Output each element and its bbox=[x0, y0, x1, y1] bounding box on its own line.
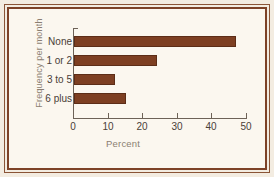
x-tick-20 bbox=[142, 113, 143, 119]
x-axis-title: Percent bbox=[106, 138, 140, 149]
x-tick-10 bbox=[108, 113, 109, 119]
x-tick-label-0: 0 bbox=[70, 121, 76, 132]
x-tick-30 bbox=[177, 113, 178, 119]
bar-chart-figure: Frequency per month None 1 or 2 3 to 5 6… bbox=[0, 0, 274, 177]
x-tick-label-10: 10 bbox=[102, 121, 113, 132]
bar-6-plus bbox=[74, 93, 126, 104]
x-tick-label-50: 50 bbox=[240, 121, 251, 132]
bar-3-to-5 bbox=[74, 74, 115, 85]
x-axis-line bbox=[73, 118, 246, 119]
y-tick-label-1-or-2: 1 or 2 bbox=[26, 51, 72, 70]
bar-1-or-2 bbox=[74, 55, 157, 66]
bar-none bbox=[74, 36, 236, 47]
x-tick-0 bbox=[73, 113, 74, 119]
x-tick-label-40: 40 bbox=[205, 121, 216, 132]
x-tick-label-20: 20 bbox=[136, 121, 147, 132]
x-tick-50 bbox=[246, 113, 247, 119]
x-tick-label-30: 30 bbox=[171, 121, 182, 132]
x-tick-40 bbox=[211, 113, 212, 119]
y-axis-top-cap bbox=[73, 28, 78, 29]
plot-area: Frequency per month None 1 or 2 3 to 5 6… bbox=[10, 10, 264, 167]
y-axis-tick-labels: None 1 or 2 3 to 5 6 plus bbox=[26, 32, 72, 112]
y-tick-label-none: None bbox=[26, 32, 72, 51]
y-tick-label-6-plus: 6 plus bbox=[26, 89, 72, 108]
y-tick-label-3-to-5: 3 to 5 bbox=[26, 70, 72, 89]
